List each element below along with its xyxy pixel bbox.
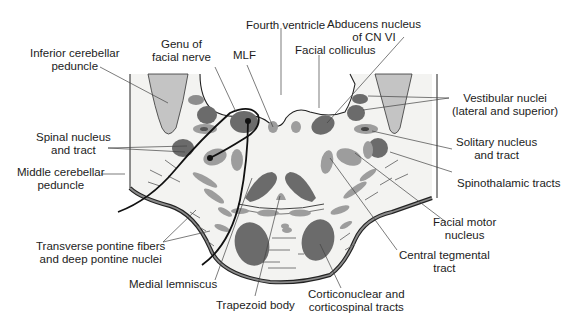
label-inferior-cerebellar-peduncle: Inferior cerebellar peduncle <box>30 47 119 73</box>
label-trapezoid-body: Trapezoid body <box>216 299 295 312</box>
label-line: and deep pontine nuclei <box>36 253 165 266</box>
label-line: facial nerve <box>152 51 211 64</box>
label-line: Middle cerebellar <box>17 166 105 179</box>
label-line: Spinal nucleus <box>36 131 111 144</box>
label-facial-motor-nucleus: Facial motor nucleus <box>433 216 496 242</box>
label-line: peduncle <box>17 179 105 192</box>
label-vestibular-nuclei: Vestibular nuclei (lateral and superior) <box>452 92 558 118</box>
label-line: Central tegmental <box>399 249 490 262</box>
label-line: and tract <box>456 149 537 162</box>
label-line: of CN VI <box>327 31 421 44</box>
label-line: Solitary nucleus <box>456 136 537 149</box>
label-line: Corticonuclear and <box>308 288 405 301</box>
label-line: peduncle <box>30 60 119 73</box>
label-medial-lemniscus: Medial lemniscus <box>129 278 217 291</box>
label-line: nucleus <box>433 229 496 242</box>
label-line: (lateral and superior) <box>452 105 558 118</box>
label-solitary-nucleus: Solitary nucleus and tract <box>456 136 537 162</box>
label-central-tegmental-tract: Central tegmental tract <box>399 249 490 275</box>
label-fourth-ventricle: Fourth ventricle <box>246 19 325 32</box>
label-spinothalamic-tracts: Spinothalamic tracts <box>457 177 561 190</box>
label-middle-cerebellar-peduncle: Middle cerebellar peduncle <box>17 166 105 192</box>
label-line: Facial motor <box>433 216 496 229</box>
label-line: tract <box>399 262 490 275</box>
label-genu-facial-nerve: Genu of facial nerve <box>152 38 211 64</box>
label-line: Abducens nucleus <box>327 18 421 31</box>
abducens-nucleus-left <box>230 111 258 133</box>
label-line: corticospinal tracts <box>308 301 405 314</box>
label-line: and tract <box>36 144 111 157</box>
label-corticonuclear-corticospinal: Corticonuclear and corticospinal tracts <box>308 288 405 314</box>
label-transverse-pontine-fibers: Transverse pontine fibers and deep ponti… <box>36 240 165 266</box>
label-spinal-nucleus-tract: Spinal nucleus and tract <box>36 131 111 157</box>
label-abducens-nucleus: Abducens nucleus of CN VI <box>327 18 421 44</box>
label-facial-colliculus: Facial colliculus <box>295 44 376 57</box>
label-line: Transverse pontine fibers <box>36 240 165 253</box>
label-mlf: MLF <box>233 49 256 62</box>
label-line: Vestibular nuclei <box>452 92 558 105</box>
label-line: Inferior cerebellar <box>30 47 119 60</box>
label-line: Genu of <box>152 38 211 51</box>
